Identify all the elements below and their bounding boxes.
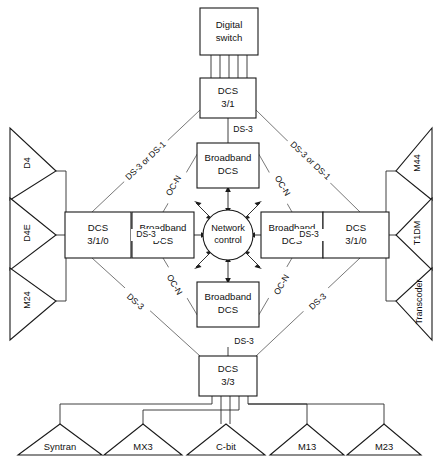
edge-label-upper-left-outer: DS-3 or DS-1 [120,136,172,186]
terminal-mx3-label: MX3 [133,441,152,452]
terminal-transcoder[interactable]: Transcoder [396,268,432,340]
terminal-syntran-label: Syntran [44,441,76,452]
edge-label-top-center: DS-3 [230,124,257,136]
circle-network-control[interactable]: Network control [203,210,253,260]
terminal-m13-label: M13 [298,441,316,452]
box-digital-switch-line1: Digital [216,19,243,30]
box-dcs-3-1[interactable]: DCS 3/1 [200,78,256,118]
terminal-m24-label: M24 [22,291,32,309]
terminal-t1dm-label: T1DM [412,221,422,246]
terminal-m24[interactable]: M24 [10,268,56,340]
terminal-d4-label: D4 [22,157,32,169]
box-dcs-3-1-0-left[interactable]: DCS 3/1/0 [65,212,131,258]
box-dcs-3-1-0-right-line2: 3/1/0 [345,235,366,246]
box-dcs-3-1-0-left-line2: 3/1/0 [87,235,108,246]
edge-label-right-horizontal: DS-3 [294,229,324,241]
box-broadband-dcs-top-line1: Broadband [205,152,252,163]
terminal-m23[interactable]: M23 [347,424,421,455]
terminal-d4e-label: D4E [22,224,32,242]
box-broadband-dcs-top-line2: DCS [218,165,238,176]
edge-label-lower-left-outer: DS-3 [118,286,151,318]
network-control-line1: Network [211,223,245,233]
edge-label-upper-right-inner: OC-N [268,167,297,204]
box-broadband-dcs-bottom-line2: DCS [218,304,238,315]
network-control-line2: control [214,235,242,245]
box-dcs-3-1-line2: 3/1 [221,98,234,109]
terminal-c-bit-label: C-bit [216,441,236,452]
edge-label-left-horizontal: DS-3 [131,229,161,241]
box-dcs-3-3[interactable]: DCS 3/3 [199,356,257,396]
edge-label-upper-right-outer: DS-3 or DS-1 [284,136,336,186]
edge-label-left-horizontal-text: DS-3 [136,229,156,239]
edge-label-top-center-text: DS-3 [233,124,253,134]
edge-label-upper-left-outer-text: DS-3 or DS-1 [123,139,167,182]
terminal-mx3[interactable]: MX3 [104,424,182,455]
edge-label-right-horizontal-text: DS-3 [299,229,319,239]
box-dcs-3-3-line2: 3/3 [221,376,234,387]
bottom-terminal-wiring [60,396,384,424]
digital-switch-to-dcs31-bundle [211,55,247,78]
box-dcs-3-3-line1: DCS [218,363,238,374]
terminal-m13[interactable]: M13 [270,424,344,455]
box-dcs-3-1-0-left-line1: DCS [88,222,108,233]
edge-label-bottom-center-text: DS-3 [234,336,254,346]
terminal-t1dm[interactable]: T1DM [396,198,432,270]
box-broadband-dcs-bottom-line1: Broadband [205,291,252,302]
edge-label-upper-left-inner: OC-N [160,167,189,204]
terminal-syntran[interactable]: Syntran [18,424,102,455]
edge-label-lower-right-outer: DS-3 [301,286,334,318]
terminal-d4e[interactable]: D4E [10,198,56,270]
edge-label-lower-right-inner: OC-N [268,266,297,303]
box-dcs-3-1-0-right[interactable]: DCS 3/1/0 [323,212,389,258]
box-digital-switch-line2: switch [216,32,243,43]
terminal-m44[interactable]: M44 [396,128,432,200]
box-broadband-dcs-top[interactable]: Broadband DCS [197,143,259,188]
box-digital-switch[interactable]: Digital switch [200,8,258,55]
edge-label-upper-right-outer-text: DS-3 or DS-1 [288,139,332,182]
box-dcs-3-1-line1: DCS [218,85,238,96]
diagram-canvas: Digital switch DCS 3/1 Broadband DCS Bro… [0,0,442,461]
terminal-transcoder-label: Transcoder [414,279,424,324]
terminal-c-bit[interactable]: C-bit [187,424,265,455]
edge-label-bottom-center: DS-3 [230,336,258,348]
edge-label-lower-left-inner: OC-N [160,266,189,303]
terminal-d4[interactable]: D4 [10,128,56,200]
box-broadband-dcs-bottom[interactable]: Broadband DCS [197,282,259,327]
network-diagram: Digital switch DCS 3/1 Broadband DCS Bro… [0,0,442,461]
terminal-m23-label: M23 [375,441,393,452]
box-dcs-3-1-0-right-line1: DCS [346,222,366,233]
terminal-m44-label: M44 [412,154,422,172]
